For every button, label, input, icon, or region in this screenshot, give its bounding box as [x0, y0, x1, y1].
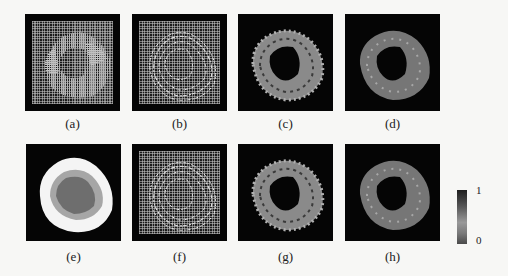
panel-label: (a)	[25, 116, 120, 132]
panel-label: (g)	[238, 249, 333, 265]
layered-blob-image	[26, 144, 121, 241]
colorbar	[457, 190, 467, 244]
colorbar-min-label: 0	[476, 234, 482, 246]
panel-e	[26, 144, 121, 241]
panel-label: (h)	[345, 249, 440, 265]
panel-d	[345, 14, 440, 111]
panel-a	[25, 14, 120, 111]
ring-edges-image	[132, 144, 227, 241]
panel-label: (e)	[26, 249, 121, 265]
panel-label: (d)	[345, 116, 440, 132]
ring-smooth-image	[345, 14, 440, 111]
ring-texture-image	[238, 14, 333, 111]
ring-stripes-image	[25, 14, 120, 111]
panel-c	[238, 14, 333, 111]
panel-h	[345, 144, 440, 241]
panel-label: (b)	[132, 116, 227, 132]
colorbar-max-label: 1	[476, 184, 482, 196]
panel-label: (c)	[238, 116, 333, 132]
panel-b	[132, 14, 227, 111]
ring-smooth-image	[345, 144, 440, 241]
ring-texture-image	[238, 144, 333, 241]
panel-f	[132, 144, 227, 241]
panel-label: (f)	[132, 249, 227, 265]
ring-edges-image	[132, 14, 227, 111]
panel-g	[238, 144, 333, 241]
